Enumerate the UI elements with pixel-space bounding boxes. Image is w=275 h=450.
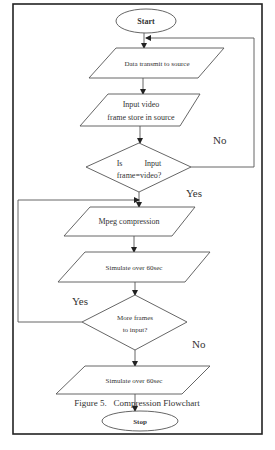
simulate-2-node: Simulate over 60sec <box>56 366 210 394</box>
edge-label-yes-1: Yes <box>186 187 202 199</box>
decision-more-label-1: More frames <box>117 314 153 322</box>
simulate-2-label: Simulate over 60sec <box>106 377 163 385</box>
stop-node: Stop <box>102 411 178 431</box>
data-transmit-node: Data transmit to source <box>89 48 224 78</box>
start-node: Start <box>116 9 176 33</box>
simulate-1-label: Simulate over 60sec <box>106 264 163 272</box>
input-video-node: Input video frame store in source <box>80 94 200 126</box>
mpeg-label: Mpeg compression <box>98 217 159 226</box>
input-video-label-2: frame store in source <box>107 113 175 122</box>
decision-input-node: Is Input frame=video? <box>86 143 191 192</box>
data-transmit-label: Data transmit to source <box>124 60 189 68</box>
edge-label-no-2: No <box>192 338 206 350</box>
flowchart: Start Data transmit to source Input vide… <box>0 0 275 450</box>
edge-label-yes-2: Yes <box>72 295 88 307</box>
stop-label: Stop <box>133 418 147 426</box>
mpeg-node: Mpeg compression <box>64 207 195 236</box>
input-video-label-1: Input video <box>123 100 160 109</box>
decision-input-label-2: frame=video? <box>117 171 162 180</box>
figure-caption: Figure 5. Compression Flowchart <box>74 398 200 408</box>
decision-input-label-1: Is Input <box>117 159 162 168</box>
decision-more-label-2: to input? <box>123 326 148 334</box>
edge-label-no-1: No <box>213 134 227 146</box>
simulate-1-node: Simulate over 60sec <box>58 252 210 282</box>
start-label: Start <box>137 17 155 26</box>
decision-more-node: More frames to input? <box>82 295 187 350</box>
